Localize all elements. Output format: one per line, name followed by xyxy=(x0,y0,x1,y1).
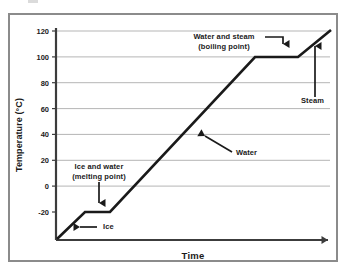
heating-curve-figure: 120 100 80 60 40 20 0 -20 Temperature (°… xyxy=(0,0,346,271)
annotation-steam: Steam xyxy=(301,96,324,106)
annotation-arrows xyxy=(80,37,315,227)
annotation-melting-point-line1: Ice and water xyxy=(58,162,140,172)
annotation-ice: Ice xyxy=(103,222,114,232)
y-tick-label-40: 40 xyxy=(23,130,49,139)
x-axis-title: Time xyxy=(56,250,330,261)
y-tick-label-20: 20 xyxy=(23,156,49,165)
y-tick-label-60: 60 xyxy=(23,105,49,114)
y-axis-title: Temperature (°C) xyxy=(14,85,24,185)
annotation-boiling-point-line1: Water and steam xyxy=(182,32,266,42)
y-tick-label-minus20: -20 xyxy=(23,208,49,217)
boiling-point-leader xyxy=(265,37,283,44)
water-arrow xyxy=(205,136,232,152)
y-tick-label-80: 80 xyxy=(23,79,49,88)
annotation-melting-point-line2: (melting point) xyxy=(58,172,140,182)
y-tick-label-100: 100 xyxy=(23,53,49,62)
annotation-water: Water xyxy=(236,148,257,158)
heating-curve-plot xyxy=(0,0,346,271)
y-tick-label-120: 120 xyxy=(23,27,49,36)
y-tick-label-0: 0 xyxy=(23,182,49,191)
annotation-boiling-point-line2: (boiling point) xyxy=(182,42,266,52)
